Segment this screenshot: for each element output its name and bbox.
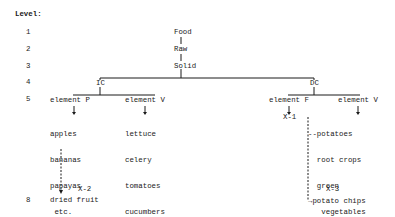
level-header: Level: (15, 10, 42, 19)
label-x1: X-1 (283, 113, 296, 122)
node-solid: Solid (174, 62, 196, 71)
list-item: papayas (50, 182, 81, 191)
list-item: apples (50, 130, 81, 139)
list-item: lettuce (125, 130, 165, 139)
node-raw: Raw (174, 45, 187, 54)
node-food: Food (174, 28, 192, 37)
node-ic-element-v: element V (125, 96, 165, 105)
list-item: --potatoes (308, 130, 366, 139)
list-item: celery (125, 156, 165, 165)
level-8: 8 (26, 196, 30, 205)
label-x2: X-2 (78, 185, 91, 194)
vegetable-list: lettuce celery tomatoes cucumbers etc. (125, 113, 165, 217)
list-item: cucumbers (125, 208, 165, 217)
list-item: etc. (50, 208, 81, 217)
level-1: 1 (26, 28, 30, 37)
list-item: root crops (308, 156, 366, 165)
list-item: vegetables (308, 208, 366, 217)
node-dc: DC (310, 79, 319, 88)
list-item: bananas (50, 156, 81, 165)
node-dc-element-v: element V (338, 96, 378, 105)
node-dried-fruit: dried fruit (50, 196, 99, 205)
node-dc-element-f: element F (269, 96, 309, 105)
level-2: 2 (26, 45, 30, 54)
level-5: 5 (26, 95, 30, 104)
level-3: 3 (26, 62, 30, 71)
node-ic-element-p: element P (50, 96, 90, 105)
level-4: 4 (26, 78, 30, 87)
node-ic: IC (96, 79, 105, 88)
label-x3: X-3 (326, 185, 339, 194)
node-potato-chips: →potato chips (308, 197, 366, 206)
list-item: tomatoes (125, 182, 165, 191)
